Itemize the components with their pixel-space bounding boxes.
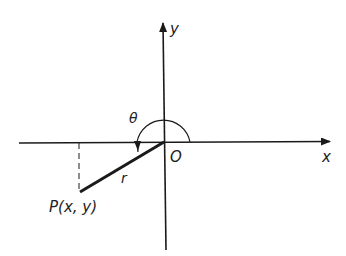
x-axis bbox=[19, 142, 330, 144]
point-label: P(x, y) bbox=[49, 198, 97, 216]
polar-diagram: y x O θ r P(x, y) bbox=[0, 0, 346, 256]
radius-label: r bbox=[121, 170, 128, 186]
angle-arc bbox=[137, 120, 190, 152]
x-axis-label: x bbox=[321, 148, 331, 166]
y-axis bbox=[163, 23, 166, 250]
y-axis-label: y bbox=[169, 20, 180, 38]
origin-label: O bbox=[170, 148, 182, 166]
angle-label: θ bbox=[129, 110, 138, 126]
angle-arc-arrow-icon bbox=[134, 141, 141, 151]
